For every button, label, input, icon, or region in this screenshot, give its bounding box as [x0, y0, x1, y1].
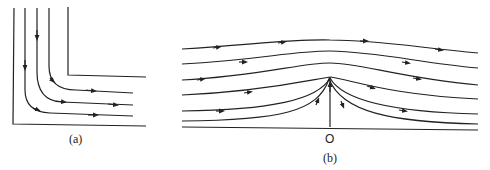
- origin-label: O: [325, 132, 334, 146]
- streamline-2: [182, 51, 478, 68]
- panel-b-drawing: [182, 40, 478, 130]
- panel-a-label: (a): [69, 132, 82, 147]
- streamline-1: [25, 8, 133, 116]
- wall: [182, 127, 478, 130]
- streamline-3: [49, 8, 133, 93]
- panel-a-drawing: [13, 7, 146, 126]
- panel-b-label: (b): [323, 151, 337, 166]
- inner-wall: [68, 7, 146, 77]
